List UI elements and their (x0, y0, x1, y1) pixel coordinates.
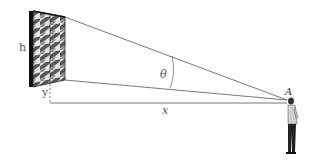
diagram-canvas: h y x θ A (0, 0, 316, 161)
viewer-person (286, 97, 298, 154)
sight-lines (50, 17, 287, 103)
diagram-svg (0, 0, 316, 161)
painting-face (33, 11, 65, 87)
painting (29, 11, 65, 87)
painting-frame-edge (29, 11, 33, 87)
top-sight-line (65, 17, 287, 100)
person-head (288, 97, 294, 104)
label-h: h (19, 42, 26, 53)
person-feet (286, 152, 296, 154)
label-y: y (42, 87, 48, 98)
person-legs (288, 124, 296, 152)
label-theta: θ (160, 69, 167, 80)
label-x: x (162, 105, 168, 116)
bottom-sight-line (65, 80, 287, 100)
theta-arc (170, 56, 174, 88)
label-A: A (285, 87, 292, 97)
